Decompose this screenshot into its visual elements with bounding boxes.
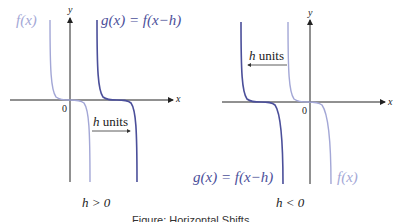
left-panel — [10, 18, 173, 182]
left-shifted-label: g(x) = f(x−h) — [101, 13, 181, 28]
left-shift-h: h — [93, 114, 100, 129]
left-original-label: f(x) — [16, 13, 37, 28]
right-x-axis-label: x — [388, 97, 392, 107]
left-x-axis-label: x — [176, 94, 180, 104]
right-y-axis-label: y — [308, 8, 312, 18]
right-condition: h < 0 — [276, 196, 304, 209]
left-shift-units: units — [103, 114, 128, 129]
right-panel — [222, 20, 385, 184]
figure-caption: Figure: Horizontal Shifts — [132, 214, 249, 222]
left-shifted-curve — [97, 20, 137, 182]
left-y-axis-label: y — [68, 5, 72, 15]
right-shifted-label: g(x) = f(x−h) — [193, 170, 273, 185]
diagram-canvas — [0, 0, 403, 222]
right-shift-units: units — [259, 48, 284, 63]
right-shift-label: h units — [249, 49, 284, 62]
left-origin-label: 0 — [62, 104, 67, 114]
right-original-label: f(x) — [337, 170, 358, 185]
left-shift-label: h units — [93, 115, 128, 128]
right-origin-label: 0 — [302, 106, 307, 116]
left-condition: h > 0 — [82, 196, 110, 209]
right-shifted-curve — [241, 22, 283, 184]
right-shift-h: h — [249, 48, 256, 63]
